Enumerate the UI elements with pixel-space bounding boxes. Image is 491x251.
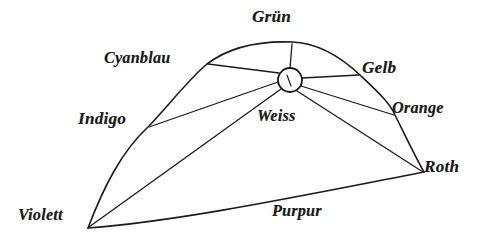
label-orange: Orange [392,100,444,116]
radial-weiss-cyanblau [208,64,279,73]
label-cyanblau: Cyanblau [104,50,170,66]
color-diagram-figure: Grün Cyanblau Gelb Indigo Orange Weiss R… [0,0,491,251]
white-point-circle [278,68,302,92]
label-indigo: Indigo [78,110,126,127]
label-purpur: Purpur [272,203,322,219]
label-gelb: Gelb [362,59,396,76]
radial-weiss-gelb [302,75,359,78]
label-roth: Roth [424,158,459,175]
label-violett: Violett [18,207,63,223]
diagram-canvas [0,0,491,251]
radial-weiss-orange [301,86,394,115]
label-gruen: Grün [252,8,291,25]
radial-weiss-gruen [290,44,292,68]
purple-line [88,172,424,228]
label-weiss: Weiss [257,108,296,124]
